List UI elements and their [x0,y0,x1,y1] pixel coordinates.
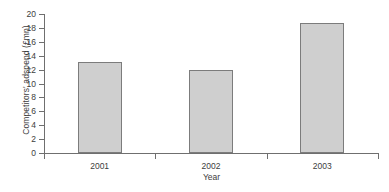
x-axis-tick [155,154,156,159]
y-axis-tick-label: 0 [0,148,36,158]
y-axis-tick-label: 6 [0,106,36,116]
y-axis-tick [39,125,44,126]
y-axis-tick [39,28,44,29]
y-axis-tick-label: 14 [0,51,36,61]
y-axis-tick-label: 18 [0,23,36,33]
x-axis-tick [378,154,379,159]
y-axis-tick-label: 2 [0,134,36,144]
y-axis-tick [39,84,44,85]
y-axis-tick [39,42,44,43]
bar [300,23,344,153]
x-axis-title: Year [44,172,379,182]
y-axis-tick-label: 16 [0,37,36,47]
x-axis-line [44,153,379,154]
y-axis-tick [39,97,44,98]
bar-chart-figure: Competitors' adspend (£mn) 2018161412108… [0,0,389,192]
y-axis-tick [39,111,44,112]
x-axis-tick-label: 2002 [176,161,246,171]
bar [189,70,233,153]
y-axis-tick-label: 12 [0,65,36,75]
figure-caption [6,187,376,192]
x-axis-tick-label: 2003 [287,161,357,171]
y-axis-tick [39,70,44,71]
y-axis-line [44,14,45,154]
x-axis-tick [267,154,268,159]
y-axis-tick-label: 8 [0,92,36,102]
x-axis-tick [44,154,45,159]
y-axis-tick-label: 20 [0,9,36,19]
y-axis-tick [39,56,44,57]
bar [78,62,122,153]
y-axis-tick [39,139,44,140]
y-axis-tick [39,14,44,15]
y-axis-tick-label: 10 [0,79,36,89]
y-axis-tick-label: 4 [0,120,36,130]
x-axis-tick-label: 2001 [65,161,135,171]
